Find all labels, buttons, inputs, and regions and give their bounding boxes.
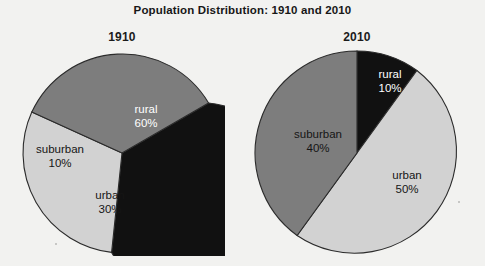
slice-label-rural-1910-pct: 60% [110, 117, 182, 131]
pie-chart-figure: Population Distribution: 1910 and 2010 1… [0, 0, 485, 266]
slice-label-urban-1910-pct: 30% [72, 203, 148, 217]
slice-label-urban-2010-pct: 50% [371, 183, 443, 197]
page-title: Population Distribution: 1910 and 2010 [0, 4, 485, 16]
slice-label-urban-1910: urban 30% [72, 189, 148, 216]
slice-label-suburban-2010-name: suburban [294, 128, 342, 140]
slice-label-suburban-1910-name: suburban [36, 143, 84, 155]
slice-label-suburban-2010-pct: 40% [275, 142, 361, 156]
pie-heading-1910: 1910 [72, 30, 172, 44]
slice-label-urban-1910-name: urban [95, 189, 124, 201]
slice-label-rural-2010-pct: 10% [359, 82, 421, 96]
scan-speck [458, 201, 460, 203]
slice-label-suburban-1910-pct: 10% [20, 157, 100, 171]
slice-label-rural-1910-name: rural [134, 103, 157, 115]
slice-label-rural-1910: rural 60% [110, 103, 182, 130]
pie-heading-2010: 2010 [307, 30, 407, 44]
slice-label-suburban-2010: suburban 40% [275, 128, 361, 155]
slice-label-suburban-1910: suburban 10% [20, 143, 100, 170]
scan-speck [55, 243, 57, 245]
slice-label-urban-2010-name: urban [392, 169, 421, 181]
slice-label-rural-2010: rural 10% [359, 68, 421, 95]
slice-label-rural-2010-name: rural [378, 68, 401, 80]
slice-label-urban-2010: urban 50% [371, 169, 443, 196]
